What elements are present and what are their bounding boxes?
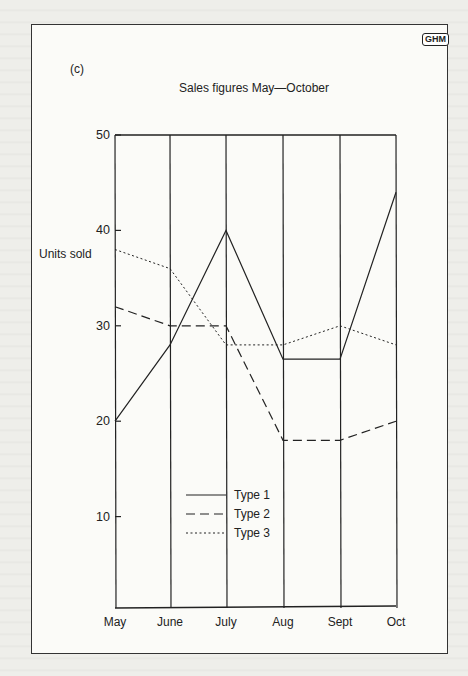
month-gridline [283, 135, 284, 608]
x-axis-line [115, 606, 396, 608]
legend-label: Type 2 [234, 507, 270, 521]
x-tick-label: May [104, 615, 127, 629]
series-line-type-1 [115, 192, 396, 421]
y-tick-label: 40 [96, 223, 110, 237]
x-tick-label: Sept [328, 615, 353, 629]
x-tick-label: June [157, 615, 183, 629]
line-chart: 1020304050 MayJuneJulyAugSeptOct Type 1T… [0, 0, 468, 676]
series-line-type-2 [115, 307, 396, 441]
month-gridline [226, 135, 227, 608]
x-tick-label: Oct [387, 615, 406, 629]
data-series [115, 192, 396, 440]
y-axis-ticks: 1020304050 [96, 128, 121, 524]
month-gridline [115, 135, 116, 608]
y-tick-label: 10 [96, 510, 110, 524]
y-tick-label: 50 [96, 128, 110, 142]
legend-label: Type 3 [234, 526, 270, 540]
month-gridline [340, 135, 341, 608]
y-tick-label: 20 [96, 414, 110, 428]
month-gridline [396, 135, 397, 608]
y-tick-label: 30 [96, 319, 110, 333]
x-tick-label: Aug [272, 615, 293, 629]
x-tick-label: July [215, 615, 236, 629]
x-axis-labels: MayJuneJulyAugSeptOct [104, 615, 406, 629]
month-gridline [170, 135, 171, 608]
chart-legend: Type 1Type 2Type 3 [186, 488, 270, 540]
legend-label: Type 1 [234, 488, 270, 502]
